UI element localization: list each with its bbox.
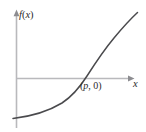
x-intercept-paren-close: ) (98, 80, 101, 91)
x-axis-label: x (133, 79, 138, 90)
function-graph-figure: f(x) x (p, 0) (0, 0, 146, 132)
y-axis-label-paren-close: ) (30, 9, 34, 20)
x-intercept-label: (p, 0) (80, 81, 102, 91)
function-curve (13, 13, 138, 119)
y-axis-label: f(x) (19, 10, 34, 21)
